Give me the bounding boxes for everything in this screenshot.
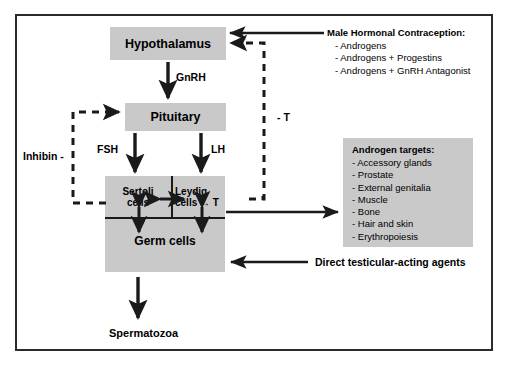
- node-sertoli: Sertoli cells: [107, 180, 169, 214]
- panel-contraception-item: - Androgens + Progestins: [327, 52, 502, 64]
- node-pituitary: Pituitary: [125, 103, 226, 131]
- panel-androgen-targets-item: - Prostate: [352, 169, 466, 181]
- node-leydig-line1: Leydig: [175, 186, 207, 197]
- node-leydig: Leydig cells → T: [175, 180, 239, 214]
- panel-androgen-targets-item: - External genitalia: [352, 182, 466, 194]
- node-pituitary-label: Pituitary: [150, 110, 200, 124]
- node-spermatozoa: Spermatozoa: [109, 327, 178, 339]
- label-direct-testicular-acting-agents-text: Direct testicular-acting agents: [315, 256, 466, 268]
- edge-label-gnrh-text: GnRH: [176, 71, 206, 83]
- edge-label-fsh: FSH: [97, 143, 118, 155]
- testis-horizontal-divider: [105, 217, 225, 219]
- node-hypothalamus-label: Hypothalamus: [125, 37, 211, 51]
- node-hypothalamus: Hypothalamus: [110, 27, 226, 60]
- node-leydig-label: Leydig cells → T: [175, 186, 219, 208]
- node-germ-cells: Germ cells: [105, 225, 225, 259]
- panel-androgen-targets-item: - Accessory glands: [352, 157, 466, 169]
- panel-androgen-targets: Androgen targets: - Accessory glands - P…: [343, 138, 473, 247]
- edge-label-testosterone-feedback: - T: [277, 111, 290, 123]
- panel-male-hormonal-contraception: Male Hormonal Contraception: - Androgens…: [327, 27, 502, 77]
- panel-contraception-item: - Androgens: [327, 40, 502, 52]
- panel-androgen-targets-item: - Erythropoiesis: [352, 231, 466, 243]
- panel-androgen-targets-item: - Hair and skin: [352, 218, 466, 230]
- panel-androgen-targets-item: - Bone: [352, 206, 466, 218]
- label-direct-testicular-acting-agents: Direct testicular-acting agents: [315, 256, 466, 268]
- panel-androgen-targets-item: - Muscle: [352, 194, 466, 206]
- edge-label-inhibin: Inhibin -: [23, 150, 64, 162]
- node-spermatozoa-label: Spermatozoa: [109, 327, 178, 339]
- node-sertoli-line2: cells: [127, 197, 149, 208]
- node-germ-cells-label: Germ cells: [134, 235, 195, 248]
- edge-label-lh: LH: [211, 143, 225, 155]
- edge-label-gnrh: GnRH: [176, 71, 206, 83]
- node-leydig-line2: cells → T: [175, 197, 219, 208]
- edge-label-fsh-text: FSH: [97, 143, 118, 155]
- node-sertoli-label: Sertoli cells: [122, 186, 153, 208]
- edge-label-inhibin-text: Inhibin -: [23, 150, 64, 162]
- diagram-canvas: Hypothalamus Pituitary Sertoli cells Ley…: [0, 0, 509, 367]
- panel-androgen-targets-title: Androgen targets:: [352, 144, 466, 156]
- testis-vertical-divider: [171, 176, 173, 218]
- edge-label-lh-text: LH: [211, 143, 225, 155]
- panel-contraception-title: Male Hormonal Contraception:: [327, 27, 502, 39]
- node-sertoli-line1: Sertoli: [122, 186, 153, 197]
- panel-contraception-item: - Androgens + GnRH Antagonist: [327, 65, 502, 77]
- edge-label-testosterone-feedback-text: - T: [277, 111, 290, 123]
